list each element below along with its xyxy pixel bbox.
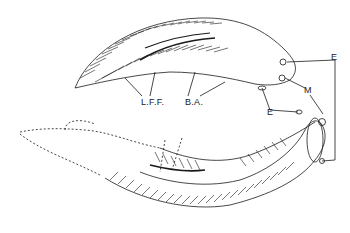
ba-leader <box>188 72 225 96</box>
upper-eye <box>280 59 286 65</box>
m-leader <box>285 78 323 114</box>
label-m: M <box>304 85 312 95</box>
lower-canal <box>150 165 205 171</box>
upper-specimen-outline <box>75 18 295 88</box>
upper-canal <box>140 38 215 60</box>
label-e-lower: E <box>267 107 273 117</box>
label-e-right: E <box>331 52 337 62</box>
lower-head <box>307 118 323 162</box>
lower-specimen-dashed-tail <box>20 121 160 175</box>
upper-specimen-ribs <box>80 21 228 82</box>
diagram-canvas <box>0 0 350 233</box>
label-lff: L.F.F. <box>141 97 164 107</box>
label-ba: B.A. <box>185 97 203 107</box>
upper-mouth-knob <box>279 75 285 81</box>
